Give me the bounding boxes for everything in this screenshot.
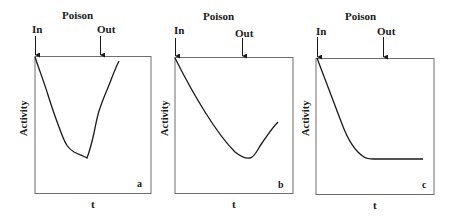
panel-c-letter: c <box>422 180 426 190</box>
panel-c: Poison In Out Activity t c <box>0 0 453 219</box>
panel-c-x-axis-label: t <box>373 200 377 211</box>
poisoning-activity-diagram: Poison In Out Activity t a Poison In Out… <box>0 0 453 219</box>
panel-c-y-axis-label: Activity <box>301 99 312 137</box>
panel-c-title: Poison <box>345 11 376 22</box>
panel-c-in-label: In <box>316 26 326 37</box>
panel-c-out-label: Out <box>377 26 395 37</box>
